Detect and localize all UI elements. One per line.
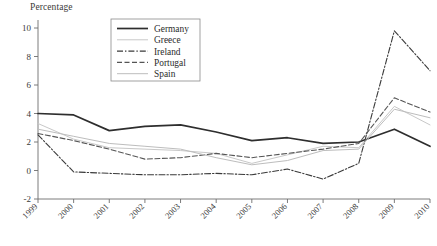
y-tick-label: 0 bbox=[27, 166, 32, 176]
y-tick-label: 8 bbox=[27, 52, 32, 62]
x-axis: 1999200020012002200320042005200620072008… bbox=[20, 199, 431, 221]
x-tick-label: 2010 bbox=[412, 201, 431, 220]
line-chart: Percentage -20246810 1999200020012002200… bbox=[0, 0, 437, 246]
y-tick-label: 2 bbox=[27, 137, 32, 147]
legend-label-ireland: Ireland bbox=[154, 47, 181, 57]
x-tick-label: 2002 bbox=[127, 201, 146, 220]
y-tick-label: 4 bbox=[27, 109, 32, 119]
x-tick-label: 2000 bbox=[56, 201, 75, 220]
legend-label-greece: Greece bbox=[154, 35, 181, 45]
legend-label-portugal: Portugal bbox=[154, 58, 186, 68]
series-line-ireland bbox=[38, 31, 430, 179]
legend-label-spain: Spain bbox=[154, 69, 176, 79]
x-tick-label: 2008 bbox=[341, 201, 360, 220]
chart-legend: GermanyGreeceIrelandPortugalSpain bbox=[111, 19, 200, 81]
x-tick-label: 2005 bbox=[234, 201, 253, 220]
y-tick-label: 6 bbox=[27, 80, 32, 90]
y-axis: -20246810 bbox=[22, 20, 38, 204]
y-tick-label: 10 bbox=[22, 23, 32, 33]
x-tick-label: 2007 bbox=[305, 201, 325, 221]
legend-label-germany: Germany bbox=[154, 24, 189, 34]
x-tick-label: 2009 bbox=[377, 201, 396, 220]
chart-canvas: -20246810 199920002001200220032004200520… bbox=[0, 0, 437, 246]
x-tick-label: 2004 bbox=[198, 201, 218, 221]
x-tick-label: 2006 bbox=[270, 201, 290, 221]
series-line-portugal bbox=[38, 98, 430, 159]
x-tick-label: 1999 bbox=[20, 201, 39, 220]
series-lines bbox=[38, 31, 430, 179]
x-tick-label: 2001 bbox=[91, 201, 110, 220]
x-tick-label: 2003 bbox=[163, 201, 182, 220]
